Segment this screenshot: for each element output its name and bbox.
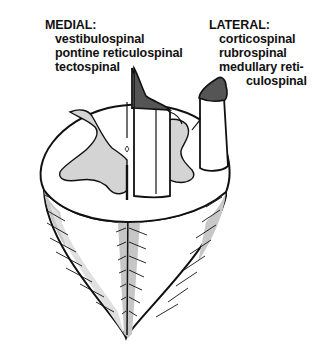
lateral-tracts-label: LATERAL: corticospinal rubrospinal medul… — [209, 18, 307, 88]
lateral-heading: LATERAL: — [209, 18, 307, 32]
lateral-item-corticospinal: corticospinal — [209, 32, 307, 46]
medial-item-pontine-reticulospinal: pontine reticulospinal — [45, 46, 183, 60]
medial-heading: MEDIAL: — [45, 18, 183, 32]
lateral-item-rubrospinal: rubrospinal — [209, 46, 307, 60]
medial-item-tectospinal: tectospinal — [45, 60, 183, 74]
medial-item-vestibulospinal: vestibulospinal — [45, 32, 183, 46]
lateral-item-medullary-reticulospinal-1: medullary reti- — [209, 60, 307, 74]
medial-tract-cap — [134, 68, 170, 110]
medial-tracts-label: MEDIAL: vestibulospinal pontine reticulo… — [45, 18, 183, 74]
lateral-item-medullary-reticulospinal-2: culospinal — [209, 74, 307, 88]
